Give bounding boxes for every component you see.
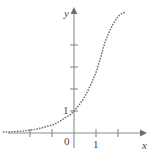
x-axis-label: x [142,140,147,151]
y-tick-label-one: 1 [63,105,69,116]
y-axis-arrow-icon [71,7,78,14]
y-axis-label: y [64,8,69,19]
origin-label: 0 [64,136,70,147]
exponential-function-figure: y x 0 1 1 [0,0,153,160]
x-axis-arrow-icon [140,130,147,137]
x-tick-label-one: 1 [93,139,99,150]
plot-canvas [0,0,153,160]
